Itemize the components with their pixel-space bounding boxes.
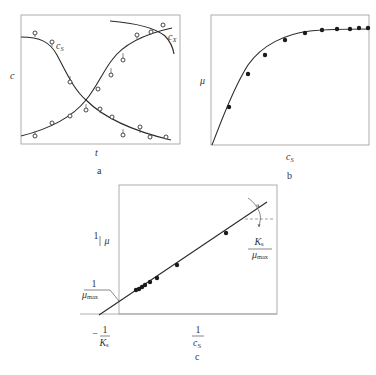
biomass-curve	[21, 28, 172, 136]
slope-angle-arc	[248, 198, 260, 226]
monod-data-points	[227, 26, 370, 109]
panel-a-ylabel: c	[10, 70, 15, 81]
panel-c: 1 μ 1 μmax − 1 Ks 1 cS Ks μmax	[80, 185, 277, 362]
panel-a-xlabel: t	[95, 147, 98, 158]
panel-a: cS cX c t a	[10, 15, 180, 176]
panel-b-xlabel: cS	[286, 151, 294, 163]
panel-c-xlabel: 1 cS	[192, 324, 204, 349]
svg-text:cS: cS	[193, 337, 201, 349]
svg-text:1: 1	[103, 324, 108, 335]
panel-b: μ cS b	[199, 15, 370, 181]
lineweaver-burk-points	[134, 231, 228, 292]
svg-text:Ks: Ks	[98, 337, 109, 348]
panel-a-frame	[21, 15, 180, 144]
monod-curve	[212, 29, 369, 145]
svg-text:μ: μ	[103, 235, 109, 246]
y-intercept-label: 1 μmax	[81, 278, 119, 301]
monod-figure: cS cX c t a μ cS b	[0, 0, 376, 375]
svg-text:μmax: μmax	[81, 289, 99, 300]
svg-text:1: 1	[94, 230, 99, 241]
panel-c-caption: c	[195, 351, 200, 362]
svg-text:Ks: Ks	[253, 236, 264, 247]
panel-a-caption: a	[97, 165, 102, 176]
panel-b-ylabel: μ	[199, 75, 205, 86]
x-intercept-label: − 1 Ks	[92, 324, 110, 348]
svg-text:1: 1	[92, 278, 97, 289]
panel-c-ylabel: 1 μ	[94, 230, 110, 246]
svg-text:μmax: μmax	[251, 249, 269, 260]
panel-b-caption: b	[287, 170, 292, 181]
biomass-curve-label: cX	[168, 31, 177, 43]
svg-text:−: −	[92, 328, 98, 339]
svg-text:1: 1	[196, 324, 201, 335]
panel-b-frame	[211, 15, 369, 145]
slope-label: Ks μmax	[248, 236, 272, 260]
lineweaver-burk-line	[99, 202, 267, 315]
substrate-curve-label: cS	[56, 40, 64, 52]
